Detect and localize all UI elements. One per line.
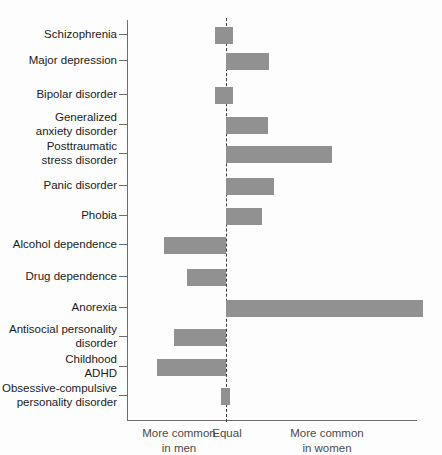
category-label: Major depression [0,54,117,68]
bar [221,388,230,405]
y-axis-line [127,20,128,421]
category-label: Panic disorder [0,179,117,193]
category-label: Posttraumatic stress disorder [0,140,117,167]
y-axis-tick [119,124,128,125]
category-label: Phobia [0,209,117,223]
axis-note-equal: Equal [199,426,255,441]
category-label: Antisocial personality disorder [0,323,117,350]
y-axis-tick [119,215,128,216]
bar [164,237,226,254]
category-label: Bipolar disorder [0,88,117,102]
bar [226,208,262,225]
category-label: Obsessive-compulsive personality disorde… [0,382,117,409]
category-label: Generalized anxiety disorder [0,111,117,138]
bar [187,269,226,286]
category-label: Schizophrenia [0,28,117,42]
bar [226,146,332,163]
bar [226,300,423,317]
bar [215,27,233,44]
bar [226,117,268,134]
category-label: Childhood ADHD [0,353,117,380]
bar [226,53,269,70]
bar [215,87,233,104]
y-axis-tick [119,34,128,35]
y-axis-tick [119,185,128,186]
y-axis-tick [119,307,128,308]
y-axis-tick [119,276,128,277]
y-axis-tick [119,336,128,337]
bar [174,329,226,346]
y-axis-tick [119,153,128,154]
category-label: Drug dependence [0,270,117,284]
bar [157,359,226,376]
y-axis-tick [119,94,128,95]
category-label: Alcohol dependence [0,238,117,252]
bar [226,178,274,195]
category-label: Anorexia [0,301,117,315]
axis-note-more-common-in-women: More common in women [268,426,386,455]
y-axis-tick [119,366,128,367]
y-axis-tick [119,244,128,245]
y-axis-tick [119,395,128,396]
sex-differences-bar-chart: SchizophreniaMajor depressionBipolar dis… [0,0,442,455]
x-axis-line [127,420,417,421]
y-axis-tick [119,60,128,61]
